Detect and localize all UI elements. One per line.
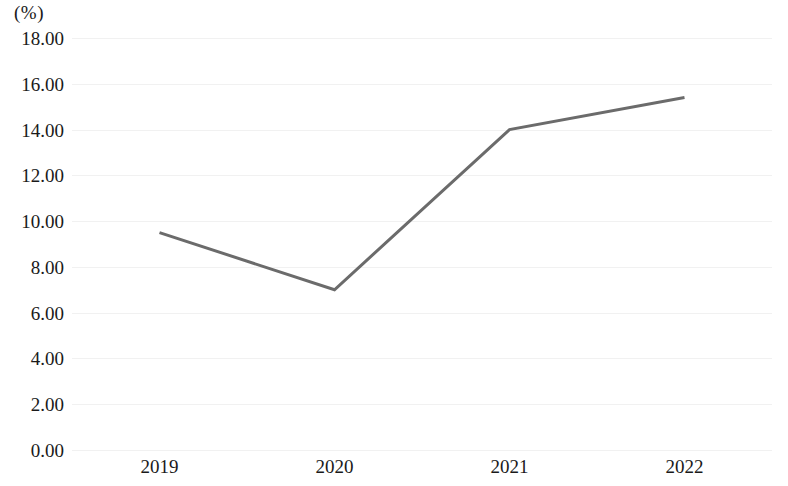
y-axis-unit-label: (%) [14,2,44,24]
y-tick-label: 0.00 [0,441,64,460]
x-tick-label: 2021 [491,456,529,478]
x-tick-label: 2019 [141,456,179,478]
y-tick-label: 8.00 [0,257,64,276]
series-line-group [72,38,772,450]
y-tick-label: 4.00 [0,349,64,368]
series-line [160,98,685,290]
y-tick-label: 14.00 [0,120,64,139]
y-tick-label: 18.00 [0,29,64,48]
plot-area [72,38,772,450]
y-axis-tick-labels: 18.0016.0014.0012.0010.008.006.004.002.0… [0,38,64,450]
x-tick-label: 2020 [316,456,354,478]
x-tick-label: 2022 [666,456,704,478]
line-chart: (%) 18.0016.0014.0012.0010.008.006.004.0… [0,0,788,486]
y-tick-label: 6.00 [0,303,64,322]
y-tick-label: 2.00 [0,395,64,414]
gridline [72,450,772,451]
y-tick-label: 16.00 [0,74,64,93]
x-axis-tick-labels: 2019202020212022 [72,456,772,482]
y-tick-label: 12.00 [0,166,64,185]
y-tick-label: 10.00 [0,212,64,231]
